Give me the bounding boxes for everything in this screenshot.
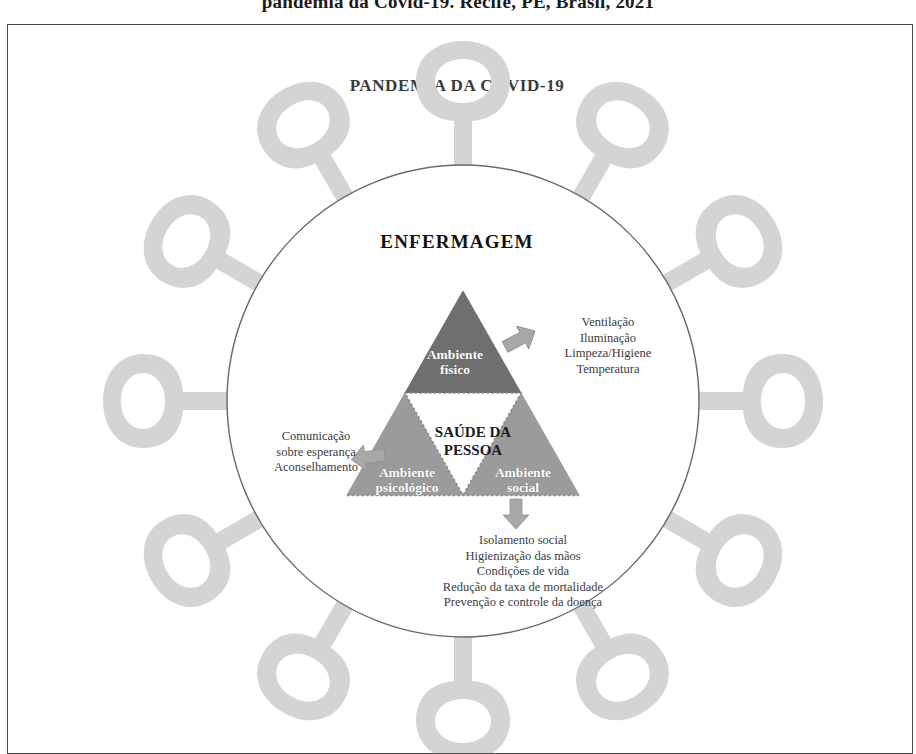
label-ambiente-fisico-line2: físico [400,362,510,377]
figure-title: PANDEMIA DA COVID-19 [8,76,906,96]
outcome-item: Aconselhamento [251,460,381,476]
outcome-item: Temperatura [528,362,688,378]
virus-diagram-canvas [8,25,913,754]
outcome-list-ambiente-psicologico: Comunicação sobre esperança Aconselhamen… [251,429,381,476]
label-ambiente-social: Ambiente social [468,465,578,495]
label-ambiente-social-line2: social [468,480,578,495]
label-saude-da-pessoa: SAÚDE DA PESSOA [413,423,533,459]
outcome-item: sobre esperança [251,445,381,461]
outcome-item: Condições de vida [378,564,668,580]
outcome-item: Ventilação [528,315,688,331]
label-ambiente-psicologico-line2: psicológico [348,480,466,495]
outcome-item: Iluminação [528,331,688,347]
outcome-item: Limpeza/Higiene [528,346,688,362]
label-enfermagem: ENFERMAGEM [8,231,906,253]
figure-frame: PANDEMIA DA COVID-19 [7,24,913,754]
label-ambiente-fisico-line1: Ambiente [400,347,510,362]
outcome-item: Prevenção e controle da doença [378,595,668,611]
triangle-ambiente-fisico [405,291,521,393]
outcome-item: Isolamento social [378,533,668,549]
arrow-down-social [503,499,529,529]
outcome-list-ambiente-fisico: Ventilação Iluminação Limpeza/Higiene Te… [528,315,688,377]
outcome-list-ambiente-social: Isolamento social Higienização das mãos … [378,533,668,611]
label-ambiente-fisico: Ambiente físico [400,347,510,377]
virus-spikes [103,41,823,754]
outcome-item: Comunicação [251,429,381,445]
outcome-item: Redução da taxa de mortalidade [378,580,668,596]
label-saude-da-pessoa-line1: SAÚDE DA [413,423,533,441]
outcome-item: Higienização das mãos [378,549,668,565]
label-ambiente-social-line1: Ambiente [468,465,578,480]
figure-caption-top: pandemia da Covid-19. Recife, PE, Brasil… [0,0,916,13]
label-saude-da-pessoa-line2: PESSOA [413,441,533,459]
